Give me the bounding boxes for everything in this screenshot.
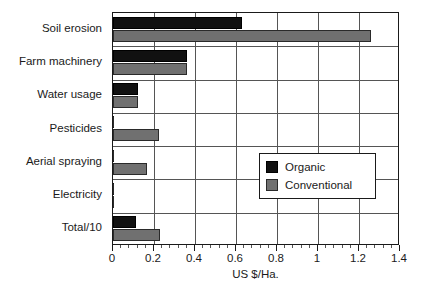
legend-entry: Conventional [266, 176, 369, 194]
x-axis-tick-labels: 00.20.40.60.811.21.4 [0, 252, 421, 266]
bar-organic [113, 50, 187, 62]
y-axis-label: Soil erosion [0, 22, 107, 34]
tick-minor [202, 245, 203, 248]
legend-swatch-conventional [266, 179, 278, 191]
tick-major [358, 245, 359, 251]
bar-conventional [113, 63, 187, 75]
bar-organic [113, 17, 242, 29]
bar-conventional [113, 129, 159, 141]
tick-minor [178, 245, 179, 248]
x-axis-tick-label: 1.2 [350, 252, 366, 265]
x-axis-ticks [112, 245, 399, 251]
tick-minor [284, 245, 285, 248]
x-axis-tick-label: 0.4 [186, 252, 202, 265]
tick-minor [243, 245, 244, 248]
tick-minor [391, 245, 392, 248]
bar-conventional [113, 229, 160, 241]
legend-entry: Organic [266, 158, 369, 176]
tick-major [235, 245, 236, 251]
tick-minor [227, 245, 228, 248]
bar-chart: Soil erosionFarm machineryWater usagePes… [0, 0, 421, 290]
tick-minor [161, 245, 162, 248]
y-axis-label: Electricity [0, 188, 107, 200]
legend-label: Conventional [285, 179, 352, 192]
y-axis-label: Aerial spraying [0, 155, 107, 167]
bar-group [113, 113, 398, 146]
y-axis-category-labels: Soil erosionFarm machineryWater usagePes… [0, 12, 107, 245]
tick-minor [342, 245, 343, 248]
bar-organic [113, 183, 114, 195]
tick-minor [301, 245, 302, 248]
tick-major [276, 245, 277, 251]
y-axis-label: Water usage [0, 88, 107, 100]
bar-group [113, 13, 398, 46]
tick-minor [350, 245, 351, 248]
bar-conventional [113, 30, 371, 42]
x-axis-tick-label: 0.8 [268, 252, 284, 265]
tick-minor [251, 245, 252, 248]
bar-organic [113, 150, 114, 162]
tick-minor [260, 245, 261, 248]
plot-area: OrganicConventional [112, 12, 399, 245]
bar-conventional [113, 196, 114, 208]
tick-minor [268, 245, 269, 248]
tick-minor [333, 245, 334, 248]
tick-minor [120, 245, 121, 248]
bar-group [113, 213, 398, 246]
y-axis-label: Total/10 [0, 221, 107, 233]
bar-organic [113, 216, 136, 228]
tick-minor [137, 245, 138, 248]
legend-swatch-organic [266, 161, 278, 173]
x-axis-title: US $/Ha. [112, 268, 399, 281]
tick-minor [374, 245, 375, 248]
bar-conventional [113, 96, 138, 108]
tick-minor [169, 245, 170, 248]
legend-label: Organic [285, 161, 325, 174]
tick-major [153, 245, 154, 251]
tick-major [399, 245, 400, 251]
tick-minor [366, 245, 367, 248]
tick-minor [145, 245, 146, 248]
tick-minor [383, 245, 384, 248]
tick-major [112, 245, 113, 251]
y-axis-label: Pesticides [0, 122, 107, 134]
x-axis-tick-label: 1 [314, 252, 320, 265]
tick-minor [292, 245, 293, 248]
bar-conventional [113, 163, 147, 175]
tick-minor [186, 245, 187, 248]
tick-major [317, 245, 318, 251]
x-axis-tick-label: 0 [109, 252, 115, 265]
x-axis-tick-label: 1.4 [391, 252, 407, 265]
x-axis-tick-label: 0.6 [227, 252, 243, 265]
chart-legend: OrganicConventional [259, 153, 376, 199]
y-axis-label: Farm machinery [0, 55, 107, 67]
tick-minor [219, 245, 220, 248]
bar-organic [113, 83, 138, 95]
tick-minor [210, 245, 211, 248]
x-axis-tick-label: 0.2 [145, 252, 161, 265]
tick-major [194, 245, 195, 251]
bar-group [113, 80, 398, 113]
tick-minor [309, 245, 310, 248]
tick-minor [325, 245, 326, 248]
bar-group [113, 46, 398, 79]
bar-organic [113, 116, 114, 128]
tick-minor [128, 245, 129, 248]
